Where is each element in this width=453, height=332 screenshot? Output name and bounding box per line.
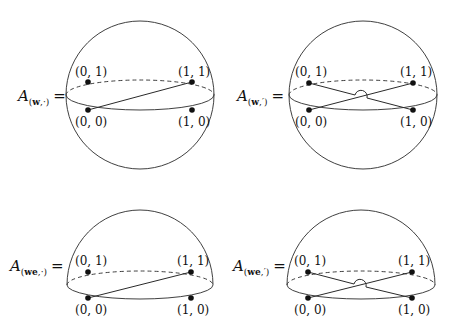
point-01 bbox=[306, 80, 312, 86]
point-label-00: (0, 0) bbox=[75, 303, 107, 317]
point-label-01: (0, 1) bbox=[75, 254, 107, 268]
point-label-10: (1, 0) bbox=[177, 303, 209, 317]
sphere-outline bbox=[289, 21, 437, 169]
point-label-01: (0, 1) bbox=[294, 254, 326, 268]
point-10 bbox=[188, 295, 194, 301]
point-01 bbox=[305, 269, 311, 275]
point-label-00: (0, 0) bbox=[295, 115, 327, 129]
point-00 bbox=[305, 295, 311, 301]
point-label-01: (0, 1) bbox=[75, 65, 107, 79]
sphere-outline bbox=[66, 21, 214, 169]
edge-00-11 bbox=[88, 272, 191, 298]
point-00 bbox=[85, 295, 91, 301]
figure-sphere-w-prime: A(w,′)= (0, 1) (1, 1) (0, 0) (1, 0) bbox=[235, 21, 437, 169]
point-label-00: (0, 0) bbox=[294, 303, 326, 317]
equation-label: A(w,·)= bbox=[16, 87, 66, 107]
point-00 bbox=[306, 107, 312, 113]
point-label-11: (1, 1) bbox=[177, 254, 209, 268]
point-11 bbox=[410, 80, 416, 86]
point-10 bbox=[189, 107, 195, 113]
point-label-01: (0, 1) bbox=[295, 65, 327, 79]
equation-label: A(we,·)= bbox=[8, 257, 64, 277]
edge-00-11 bbox=[88, 82, 192, 110]
point-label-11: (1, 1) bbox=[398, 254, 430, 268]
point-label-11: (1, 1) bbox=[400, 65, 432, 79]
point-label-11: (1, 1) bbox=[178, 65, 210, 79]
point-label-10: (1, 0) bbox=[398, 303, 430, 317]
equator-front bbox=[289, 95, 437, 110]
equation-label: A(w,′)= bbox=[235, 87, 284, 107]
point-label-00: (0, 0) bbox=[75, 115, 107, 129]
figure-sphere-w-dot: A(w,·)= (0, 1) (1, 1) (0, 0) (1, 0) bbox=[16, 21, 214, 169]
point-01 bbox=[85, 79, 91, 85]
figure-hemisphere-we-dot: A(we,·)= (0, 1) (1, 1) (0, 0) (1, 0) bbox=[8, 210, 213, 317]
point-11 bbox=[409, 269, 415, 275]
point-01 bbox=[85, 269, 91, 275]
point-11 bbox=[188, 269, 194, 275]
figure-hemisphere-we-prime: A(we,′)= (0, 1) (1, 1) (0, 0) (1, 0) bbox=[231, 210, 435, 317]
point-11 bbox=[189, 79, 195, 85]
point-10 bbox=[410, 107, 416, 113]
point-10 bbox=[409, 295, 415, 301]
point-label-10: (1, 0) bbox=[178, 115, 210, 129]
point-label-10: (1, 0) bbox=[400, 115, 432, 129]
point-00 bbox=[85, 107, 91, 113]
equation-label: A(we,′)= bbox=[231, 257, 286, 277]
diagram-canvas: A(w,·)= (0, 1) (1, 1) (0, 0) (1, 0) A(w,… bbox=[0, 0, 453, 332]
